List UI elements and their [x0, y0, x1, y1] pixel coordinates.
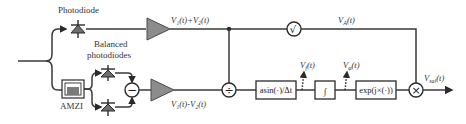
freq-signal-label: Vf(t) — [300, 60, 315, 71]
asin-block-label: asin(·)/Δt — [260, 85, 293, 95]
balanced-label-line1: Balanced — [94, 39, 128, 49]
wire-amplitude — [301, 29, 416, 83]
diff-signal-label: V₁(t)-V₂(t) — [171, 99, 206, 109]
divide-icon: ÷ — [224, 84, 233, 97]
freq-tap-arrow — [302, 72, 304, 90]
signal-processing-diagram: Photodiode AMZI Balanced photodiodes − — [0, 0, 466, 124]
multiply-icon: × — [411, 84, 420, 97]
sum-signal-label: V₁(t)+V₂(t) — [171, 15, 209, 25]
amplifier-top-icon — [147, 18, 170, 40]
divide-operator: ÷ — [222, 83, 236, 97]
amplifier-bottom-icon — [151, 79, 174, 101]
phase-signal-label: Vφ(t) — [343, 60, 360, 71]
input-wire — [18, 29, 66, 90]
amzi-output-wires — [84, 73, 101, 107]
amzi-block — [62, 80, 84, 98]
subtract-operator: − — [125, 83, 139, 97]
amzi-label: AMZI — [60, 101, 83, 111]
wire-pd-top-to-sub — [115, 73, 132, 82]
photodiode-icon — [71, 20, 85, 38]
minus-icon: − — [127, 83, 137, 97]
wire-pd-bottom-to-sub — [115, 98, 132, 107]
exp-block-label: exp(j×(·)) — [359, 85, 393, 95]
photodiode-label: Photodiode — [58, 5, 99, 15]
sqrt-operator: √ — [287, 22, 301, 36]
sqrt-icon: √ — [290, 24, 297, 35]
balanced-photodiode-bottom-icon — [101, 99, 115, 116]
amplitude-signal-label: VA(t) — [338, 15, 355, 26]
output-signal-label: Vsal(t) — [424, 73, 444, 84]
balanced-label-line2: photodiodes — [87, 50, 131, 60]
phase-tap-arrow — [345, 72, 347, 90]
multiply-operator: × — [409, 83, 423, 97]
balanced-photodiode-top-icon — [101, 65, 115, 81]
